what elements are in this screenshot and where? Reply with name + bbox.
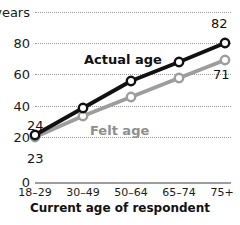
felt-age-marker: [221, 56, 229, 64]
actual-age-marker: [127, 77, 135, 85]
x-tick-50-64: 50–64: [114, 186, 148, 199]
x-tick-65-74: 65–74: [162, 186, 196, 199]
plot-area: [35, 12, 231, 182]
x-axis-line: [35, 182, 231, 184]
actual-age-marker: [175, 58, 183, 66]
felt-age-series-label: Felt age: [90, 123, 149, 138]
actual-age-marker: [221, 39, 229, 47]
felt-age-last-value-label: 71: [213, 67, 230, 82]
y-tick-100: 100 years: [0, 5, 30, 20]
y-tick-80: 80: [13, 36, 30, 51]
x-tick-18-29: 18–29: [18, 186, 52, 199]
actual-age-first-value-label: 24: [27, 118, 44, 133]
series-lines: [35, 12, 231, 182]
y-tick-60: 60: [13, 67, 30, 82]
felt-age-marker: [127, 93, 135, 101]
actual-age-marker: [79, 104, 87, 112]
felt-age-first-value-label: 23: [27, 151, 44, 166]
actual-age-series-label: Actual age: [84, 52, 162, 67]
x-axis-title: Current age of respondent: [0, 201, 240, 215]
x-tick-75-plus: 75+: [210, 186, 233, 199]
felt-age-marker: [175, 74, 183, 82]
actual-age-last-value-label: 82: [211, 16, 228, 31]
age-perception-line-chart: 100 years 80 60 40 20 0 18–29 30–49 50–6…: [0, 0, 240, 225]
x-tick-30-49: 30–49: [66, 186, 100, 199]
y-tick-40: 40: [13, 99, 30, 114]
